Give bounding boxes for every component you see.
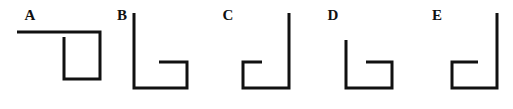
figure-svg: A B C D E	[0, 0, 513, 109]
figure-d-label: D	[328, 7, 339, 23]
figure-c-label: C	[223, 7, 234, 23]
figure-panel: A B C D E	[0, 0, 513, 109]
figure-b-label: B	[117, 7, 127, 23]
figure-a-label: A	[25, 7, 36, 23]
figure-e-label: E	[432, 7, 442, 23]
